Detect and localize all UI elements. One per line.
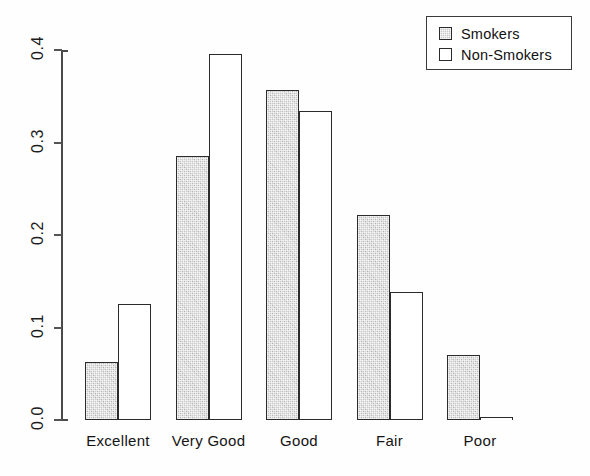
y-axis-tick <box>54 142 62 144</box>
bar-smokers-excellent <box>85 362 118 420</box>
x-axis-label-fair: Fair <box>376 432 403 449</box>
bar-smokers-fair <box>357 215 390 420</box>
x-axis-label-good: Good <box>280 432 318 449</box>
legend-item-non-smokers: Non-Smokers <box>439 44 571 65</box>
bar-non-smokers-very-good <box>209 54 242 420</box>
y-axis-tick-label: 0.0 <box>0 409 50 427</box>
legend: Smokers Non-Smokers <box>426 16 572 70</box>
legend-label-smokers: Smokers <box>461 26 520 42</box>
y-axis-tick-label: 0.3 <box>0 132 50 150</box>
bar-non-smokers-fair <box>390 292 423 420</box>
y-axis-tick-label: 0.2 <box>0 224 50 242</box>
bar-chart: 0.00.10.20.30.4 ExcellentVery GoodGoodFa… <box>0 0 590 476</box>
bar-smokers-poor <box>447 355 480 420</box>
legend-label-non-smokers: Non-Smokers <box>461 47 552 63</box>
y-axis-tick-label: 0.1 <box>0 317 50 335</box>
plot-area: 0.00.10.20.30.4 ExcellentVery GoodGoodFa… <box>0 0 590 476</box>
legend-swatch-non-smokers-icon <box>439 48 452 61</box>
legend-item-smokers: Smokers <box>439 23 571 44</box>
y-axis-tick <box>54 327 62 329</box>
y-axis-tick <box>54 419 62 421</box>
y-axis-tick <box>54 49 62 51</box>
y-axis-tick <box>54 234 62 236</box>
bar-non-smokers-poor <box>480 417 513 420</box>
x-axis-label-excellent: Excellent <box>86 432 150 449</box>
bar-smokers-very-good <box>176 156 209 420</box>
y-axis-top-cap <box>61 50 68 52</box>
bar-smokers-good <box>266 90 299 420</box>
y-axis-tick-label: 0.4 <box>0 39 50 57</box>
x-axis-label-poor: Poor <box>464 432 497 449</box>
y-axis-bottom-cap <box>61 419 68 421</box>
bar-non-smokers-excellent <box>118 304 151 420</box>
legend-swatch-smokers-icon <box>439 27 452 40</box>
x-axis-label-very-good: Very Good <box>172 432 246 449</box>
bar-non-smokers-good <box>299 111 332 420</box>
